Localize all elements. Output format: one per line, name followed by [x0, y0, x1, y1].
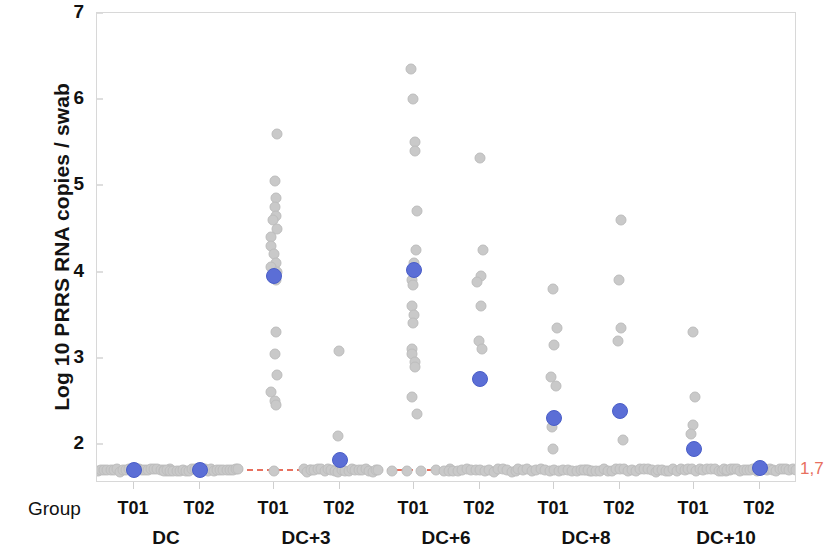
x-sub-label-DC-T01: T01 [117, 498, 148, 519]
data-point [548, 443, 559, 454]
data-point [406, 391, 417, 402]
x-tick-mark [693, 482, 694, 489]
x-sub-label-DCplus3-T01: T01 [257, 498, 288, 519]
data-point [401, 466, 412, 477]
data-point [334, 346, 345, 357]
x-sub-label-DCplus8-T02: T02 [603, 498, 634, 519]
mean-marker [192, 462, 208, 478]
x-group-label-DCplus3: DC+3 [281, 527, 330, 546]
y-tick-mark [97, 357, 103, 358]
data-point [410, 145, 421, 156]
x-tick-mark [339, 482, 340, 489]
data-point [688, 327, 699, 338]
x-tick-mark [479, 482, 480, 489]
data-point [548, 283, 559, 294]
x-sub-label-DCplus8-T01: T01 [537, 498, 568, 519]
data-point [686, 428, 697, 439]
data-point [407, 279, 418, 290]
x-sub-label-DCplus3-T02: T02 [323, 498, 354, 519]
mean-marker [332, 452, 348, 468]
x-sub-label-DCplus6-T01: T01 [397, 498, 428, 519]
data-point [613, 335, 624, 346]
data-point [550, 380, 561, 391]
data-point [791, 464, 796, 475]
data-point [407, 94, 418, 105]
data-point [271, 400, 282, 411]
data-point [471, 277, 482, 288]
y-tick-mark [97, 271, 103, 272]
x-group-label-DCplus8: DC+8 [561, 527, 610, 546]
data-point [616, 214, 627, 225]
data-point [614, 275, 625, 286]
data-point [475, 152, 486, 163]
data-point [373, 464, 384, 475]
y-tick-label-2: 2 [44, 432, 95, 454]
data-point [387, 466, 398, 477]
data-point [269, 176, 280, 187]
data-point [410, 361, 421, 372]
plot-canvas [97, 13, 795, 481]
data-point [476, 301, 487, 312]
data-point [617, 434, 628, 445]
y-tick-mark [97, 444, 103, 445]
x-tick-mark [619, 482, 620, 489]
data-point [416, 465, 427, 476]
x-sub-label-DC-T02: T02 [183, 498, 214, 519]
data-point [269, 465, 280, 476]
data-point [410, 245, 421, 256]
x-tick-mark [413, 482, 414, 489]
data-point [411, 409, 422, 420]
x-tick-mark [759, 482, 760, 489]
x-sub-label-DCplus10-T01: T01 [677, 498, 708, 519]
data-point [477, 245, 488, 256]
data-point [615, 322, 626, 333]
y-tick-mark [97, 185, 103, 186]
y-tick-mark [97, 13, 103, 14]
x-group-label-DC: DC [152, 527, 179, 546]
x-tick-mark [273, 482, 274, 489]
x-tick-mark [553, 482, 554, 489]
x-group-label-DCplus6: DC+6 [421, 527, 470, 546]
data-point [548, 340, 559, 351]
data-point [690, 391, 701, 402]
mean-marker [266, 268, 282, 284]
data-point [477, 344, 488, 355]
data-point [411, 206, 422, 217]
y-tick-label-4: 4 [44, 260, 95, 282]
mean-marker [752, 460, 768, 476]
data-point [269, 348, 280, 359]
mean-marker [472, 371, 488, 387]
y-tick-label-7: 7 [44, 1, 95, 23]
data-point [552, 322, 563, 333]
data-point [271, 370, 282, 381]
reference-line-label: 1,7 [800, 459, 824, 479]
data-point [407, 318, 418, 329]
x-axis-caption: Group [28, 498, 81, 520]
x-sub-label-DCplus6-T02: T02 [463, 498, 494, 519]
plot-area [96, 12, 796, 482]
data-point [333, 430, 344, 441]
data-point [271, 128, 282, 139]
mean-marker [686, 441, 702, 457]
y-tick-label-6: 6 [44, 87, 95, 109]
y-tick-mark [97, 99, 103, 100]
mean-marker [612, 403, 628, 419]
x-tick-mark [199, 482, 200, 489]
x-group-label-DCplus10: DC+10 [696, 527, 756, 546]
data-point [271, 327, 282, 338]
mean-marker [406, 262, 422, 278]
x-sub-label-DCplus10-T02: T02 [743, 498, 774, 519]
data-point [406, 64, 417, 75]
mean-marker [546, 410, 562, 426]
mean-marker [126, 462, 142, 478]
y-tick-label-5: 5 [44, 173, 95, 195]
data-point [233, 463, 244, 474]
y-tick-label-3: 3 [44, 346, 95, 368]
x-tick-mark [133, 482, 134, 489]
